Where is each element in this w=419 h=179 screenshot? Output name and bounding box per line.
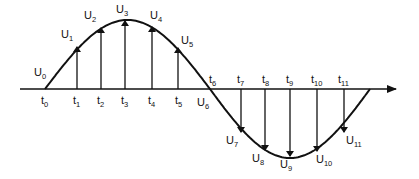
sample-label-11: U11 <box>346 134 362 149</box>
time-label-5: t5 <box>175 94 182 109</box>
sample-label-4: U4 <box>150 9 162 24</box>
time-labels: t0t1t2t3t4t5t6t7t8t9t10t11 <box>41 73 349 109</box>
sample-label-0: U0 <box>34 66 46 81</box>
sine-sampling-diagram: t0t1t2t3t4t5t6t7t8t9t10t11 U0U1U2U3U4U5U… <box>0 0 419 179</box>
sample-label-6: U6 <box>197 96 209 111</box>
time-label-11: t11 <box>338 73 349 88</box>
time-label-2: t2 <box>97 94 104 109</box>
time-label-10: t10 <box>311 73 322 88</box>
time-label-0: t0 <box>41 94 48 109</box>
sample-label-5: U5 <box>181 34 193 49</box>
sample-label-1: U1 <box>61 28 73 43</box>
sample-label-3: U3 <box>116 3 128 18</box>
time-label-3: t3 <box>121 94 128 109</box>
time-label-9: t9 <box>286 73 293 88</box>
sample-label-9: U9 <box>280 158 292 173</box>
time-label-7: t7 <box>237 73 244 88</box>
sample-label-2: U2 <box>84 9 96 24</box>
time-label-6: t6 <box>209 73 216 88</box>
sample-label-10: U10 <box>316 153 332 168</box>
time-label-8: t8 <box>262 73 269 88</box>
sample-label-7: U7 <box>226 134 238 149</box>
time-label-1: t1 <box>73 94 80 109</box>
sample-labels: U0U1U2U3U4U5U6U7U8U9U10U11 <box>34 3 362 173</box>
sample-label-8: U8 <box>252 152 264 167</box>
time-label-4: t4 <box>148 94 155 109</box>
